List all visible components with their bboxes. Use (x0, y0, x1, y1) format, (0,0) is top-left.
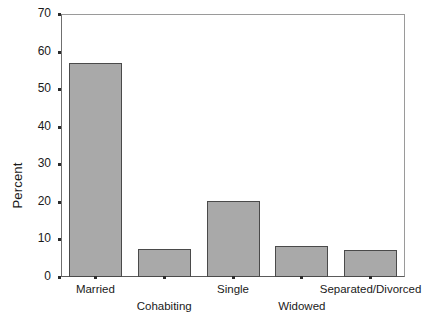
bar (275, 246, 328, 277)
bar (207, 201, 260, 277)
x-tick-mark (163, 276, 166, 279)
x-tick-mark (94, 276, 97, 279)
y-tick-label: 60 (38, 44, 51, 58)
y-tick-mark (58, 201, 61, 204)
bar (344, 250, 397, 277)
x-tick-label: Cohabiting (137, 300, 192, 312)
y-tick-mark (58, 51, 61, 54)
x-tick-label: Separated/Divorced (320, 283, 422, 295)
x-tick-mark (300, 276, 303, 279)
y-tick-label: 30 (38, 156, 51, 170)
y-tick-label: 70 (38, 6, 51, 20)
y-tick-label: 0 (44, 269, 51, 283)
y-tick-label: 10 (38, 231, 51, 245)
y-tick-mark (58, 126, 61, 129)
bar (69, 63, 122, 277)
y-tick-mark (58, 163, 61, 166)
x-tick-mark (369, 276, 372, 279)
y-axis-title: Percent (10, 141, 25, 231)
x-tick-label: Widowed (278, 300, 325, 312)
bar-chart: Percent 010203040506070 MarriedCohabitin… (0, 0, 426, 328)
bar (138, 249, 191, 277)
y-tick-mark (58, 276, 61, 279)
y-tick-label: 50 (38, 81, 51, 95)
y-tick-label: 40 (38, 119, 51, 133)
y-tick-mark (58, 13, 61, 16)
x-tick-label: Married (76, 283, 115, 295)
y-tick-mark (58, 238, 61, 241)
y-tick-label: 20 (38, 194, 51, 208)
y-tick-mark (58, 88, 61, 91)
x-tick-label: Single (217, 283, 249, 295)
x-tick-mark (232, 276, 235, 279)
